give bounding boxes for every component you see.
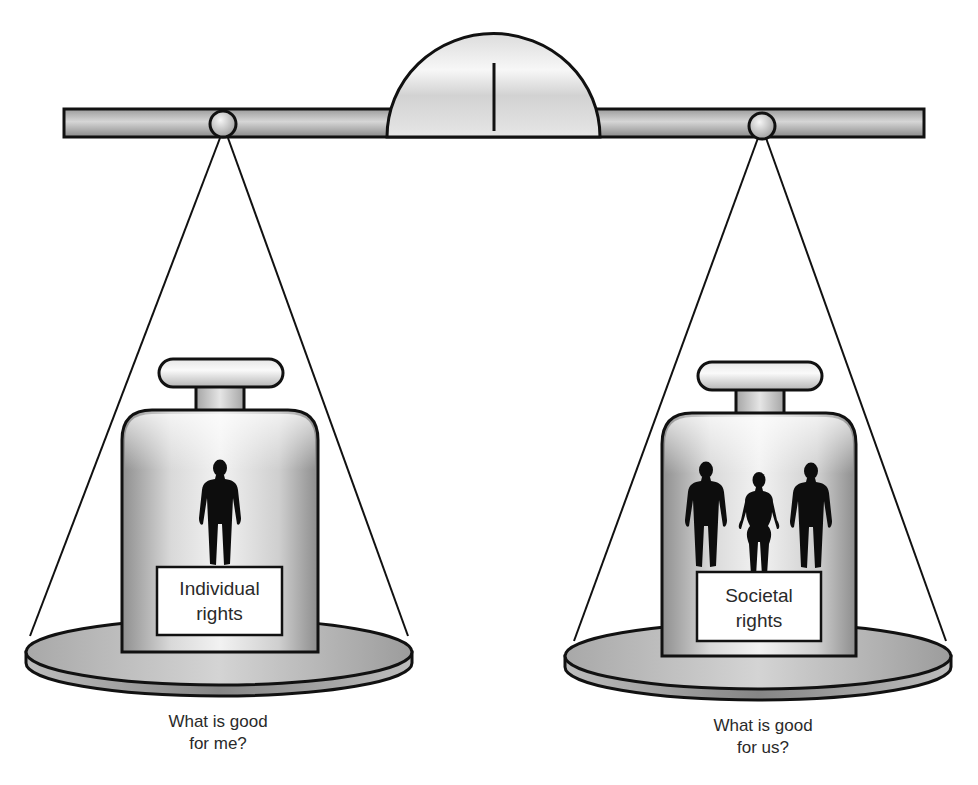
weight-label-line2: rights [736,610,782,631]
left-caption: What is good for me? [168,712,267,753]
right-caption-line2: for us? [737,738,789,757]
fulcrum-dome [387,34,600,137]
left-caption-line1: What is good [168,712,267,731]
right-weight: Societal rights [662,362,856,656]
left-weight: Individual rights [122,359,318,652]
balance-scale-diagram: Individual rights Societal rights What i… [0,0,978,785]
right-pivot-knob [749,113,775,139]
left-pivot-knob [210,111,236,137]
weight-label-line1: Societal [725,585,793,606]
right-caption: What is good for us? [713,716,812,757]
left-caption-line2: for me? [189,734,247,753]
weight-label-line1: Individual [179,578,259,599]
weight-label-line2: rights [196,603,242,624]
right-caption-line1: What is good [713,716,812,735]
